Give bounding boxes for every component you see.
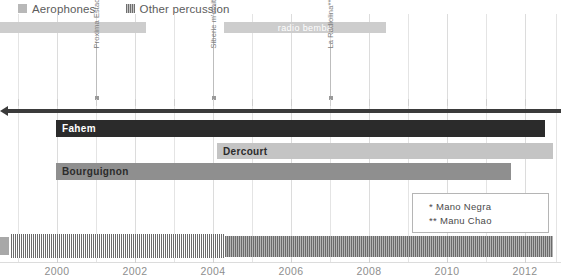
album-label-siberie-metait-contee: Siberie m'etait contee** [210, 0, 219, 49]
timeline-axis-line [7, 109, 561, 113]
footnote-box: * Mano Negra ** Manu Chao [412, 193, 549, 233]
series-bar-fahem: Fahem [56, 120, 545, 137]
percussion-band-sparse [11, 234, 225, 258]
gridline [252, 14, 253, 262]
x-axis-label-2012: 2012 [513, 265, 538, 277]
legend-item-aerophones: Aerophones [18, 3, 96, 15]
axis-tick [291, 99, 292, 106]
axis-tick [525, 99, 526, 106]
timeline-chart: Aerophones Other percussion radio bemba … [0, 0, 561, 280]
x-axis-tick [135, 258, 136, 263]
legend-label-aerophones: Aerophones [32, 3, 96, 15]
x-axis-tick [447, 258, 448, 263]
period-label-radio-bemba: radio bemba [278, 23, 332, 33]
gridline [556, 14, 557, 262]
x-axis-label-2010: 2010 [435, 265, 460, 277]
gridline [408, 14, 409, 262]
x-axis-tick [369, 258, 370, 263]
series-label-dercourt: Dercourt [217, 146, 267, 157]
axis-tick [213, 99, 214, 106]
album-marker-stem [330, 42, 331, 98]
legend-swatch-aerophones-icon [18, 4, 27, 13]
x-axis-tick [525, 258, 526, 263]
series-bar-bourguignon: Bourguignon [56, 163, 511, 180]
percussion-band-cap [0, 237, 9, 255]
period-bar-mano-negra [0, 22, 146, 33]
x-axis-tick [213, 258, 214, 263]
footnote-mano-negra: * Mano Negra [429, 200, 548, 214]
period-bar-radio-bemba: radio bemba [224, 22, 386, 33]
axis-tick [330, 99, 331, 106]
axis-tick [174, 99, 175, 106]
x-axis-line [0, 262, 561, 263]
axis-tick [18, 99, 19, 106]
x-axis-tick [291, 258, 292, 263]
footnote-manu-chao: ** Manu Chao [429, 214, 548, 228]
x-axis-label-2000: 2000 [45, 265, 70, 277]
series-label-fahem: Fahem [56, 123, 96, 134]
gridline [18, 14, 19, 262]
gridline [369, 14, 370, 262]
percussion-band-dense [225, 236, 553, 257]
axis-tick [135, 99, 136, 106]
gridline [174, 14, 175, 262]
axis-tick [252, 99, 253, 106]
chart-legend: Aerophones Other percussion [0, 0, 561, 17]
axis-tick [447, 99, 448, 106]
axis-tick [408, 99, 409, 106]
series-bar-dercourt: Dercourt [217, 143, 553, 159]
axis-tick [486, 99, 487, 106]
axis-tick [57, 99, 58, 106]
x-axis-label-2006: 2006 [279, 265, 304, 277]
album-marker-stem [96, 42, 97, 98]
x-axis-tick [57, 258, 58, 263]
album-label-proxima-estacion-esperanza: Proxima Estacion Esperanza* [93, 0, 102, 49]
x-axis-label-2008: 2008 [357, 265, 382, 277]
axis-tick [369, 99, 370, 106]
album-label-la-radiolina: La Radiolina** [327, 0, 336, 49]
gridline [135, 14, 136, 262]
gridline [291, 14, 292, 262]
gridline [57, 14, 58, 262]
x-axis-label-2004: 2004 [201, 265, 226, 277]
series-label-bourguignon: Bourguignon [56, 166, 129, 177]
legend-swatch-other-percussion-icon [126, 4, 135, 13]
axis-tick [96, 99, 97, 106]
x-axis-label-2002: 2002 [123, 265, 148, 277]
